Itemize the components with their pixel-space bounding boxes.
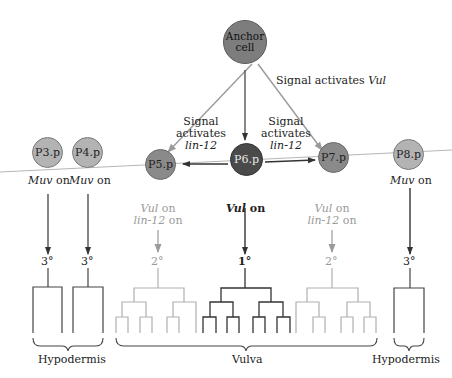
diagram-lines — [0, 0, 452, 378]
fate-p4: 3° — [81, 256, 94, 268]
p5-vul-lin12-on: Vul on lin-12 on — [132, 203, 184, 227]
lineage-p5 — [116, 268, 196, 333]
signal-vul-label: Signal activates Vul — [276, 75, 386, 87]
vulval-induction-diagram: Anchor cell Signal activates Vul Signal … — [0, 0, 452, 378]
cell-p8p: P8.p — [393, 139, 424, 170]
lineage-p7 — [296, 268, 376, 333]
fate-p8: 3° — [403, 256, 416, 268]
p3-muv-on: Muv on — [28, 175, 70, 187]
ventral-line — [0, 150, 452, 172]
fate-p7: 2° — [325, 256, 338, 268]
signal-lin12-right-label: Signal activates lin-12 — [261, 116, 311, 152]
lineage-p8 — [394, 268, 424, 333]
outcome-hypodermis-right: Hypodermis — [372, 354, 440, 366]
p6-vul-on: Vul on — [226, 203, 265, 215]
outcome-hypodermis-left: Hypodermis — [38, 354, 106, 366]
signal-lin12-left-label: Signal activates lin-12 — [176, 116, 226, 152]
brace-vulva — [116, 338, 377, 351]
cell-p7p: P7.p — [318, 142, 349, 173]
brace-right — [394, 338, 424, 351]
brace-left — [33, 338, 103, 351]
cell-p3p: P3.p — [32, 137, 63, 168]
cell-p6p: P6.p — [230, 143, 263, 176]
lineage-p3 — [33, 268, 62, 333]
p8-muv-on: Muv on — [390, 175, 432, 187]
fate-p3: 3° — [41, 256, 54, 268]
cell-p5p: P5.p — [145, 149, 176, 180]
p4-muv-on: Muv on — [69, 175, 111, 187]
p7-vul-lin12-on: Vul on lin-12 on — [306, 203, 358, 227]
fate-p5: 2° — [151, 256, 164, 268]
fate-p6: 1° — [238, 256, 251, 268]
cell-p4p: P4.p — [72, 137, 103, 168]
anchor-cell-line2: cell — [236, 42, 255, 53]
outcome-vulva: Vulva — [232, 354, 263, 366]
lineage-p4 — [73, 268, 103, 333]
lineage-p6 — [203, 268, 290, 333]
anchor-cell: Anchor cell — [223, 20, 267, 64]
